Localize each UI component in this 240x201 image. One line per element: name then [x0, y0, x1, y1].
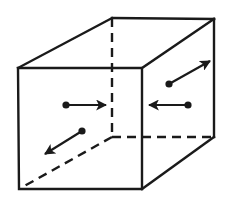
visible-edges	[18, 18, 214, 189]
cube-svg	[0, 0, 240, 201]
arrow-right-front	[62, 101, 106, 108]
arrow-down-left-diagonal	[45, 127, 86, 154]
arrow-up-right-icon	[169, 61, 210, 84]
arrow-left-right-face	[149, 101, 192, 108]
top-right-depth-edge	[142, 19, 214, 68]
top-left-depth-edge	[18, 18, 112, 68]
arrows	[45, 61, 210, 154]
bottom-right-depth-edge	[142, 137, 214, 189]
arrow-up-right-diagonal	[165, 61, 210, 88]
hidden-edge-bottom-left-depth	[19, 137, 112, 189]
arrow-down-left-icon	[45, 131, 82, 154]
cube-diagram	[0, 0, 240, 201]
top-back-edge	[112, 18, 214, 19]
